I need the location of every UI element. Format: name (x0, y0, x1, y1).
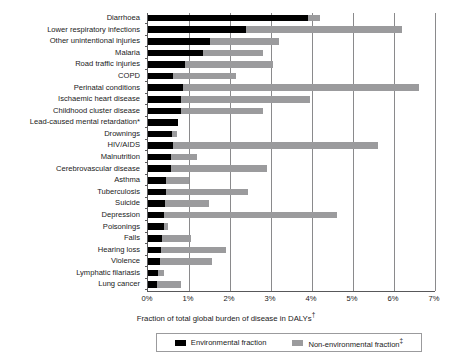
category-axis-labels: DiarrhoeaLower respiratory infectionsOth… (0, 13, 144, 291)
bar-segment-non-environmental (181, 96, 310, 103)
category-label: Falls (0, 233, 140, 244)
bar-row (148, 140, 435, 151)
category-label: Tuberculosis (0, 187, 140, 198)
bar-segment-environmental (148, 96, 181, 103)
bar-segment-non-environmental (161, 247, 226, 254)
bar-segment-non-environmental (173, 142, 378, 149)
stacked-bar (148, 61, 273, 68)
stacked-bar (148, 108, 263, 115)
stacked-bar (148, 142, 378, 149)
category-label: Perinatal conditions (0, 83, 140, 94)
bar-row (148, 210, 435, 221)
bar-segment-environmental (148, 189, 166, 196)
footnote-marker-dagger: † (312, 311, 316, 318)
x-tick-label: 6% (388, 294, 399, 303)
bar-segment-environmental (148, 200, 165, 207)
stacked-bar (148, 177, 189, 184)
stacked-bar (148, 258, 212, 265)
stacked-bar (148, 270, 164, 277)
category-label: COPD (0, 71, 140, 82)
bar-row (148, 279, 435, 290)
bar-segment-environmental (148, 154, 171, 161)
bar-row (148, 164, 435, 175)
stacked-bar (148, 247, 226, 254)
category-label: Malaria (0, 48, 140, 59)
bar-segment-environmental (148, 15, 308, 22)
category-label: Violence (0, 256, 140, 267)
x-tick-label: 2% (224, 294, 235, 303)
bar-row (148, 152, 435, 163)
bar-rows (148, 13, 435, 291)
bar-segment-environmental (148, 177, 166, 184)
bar-segment-non-environmental (164, 212, 336, 219)
category-label: Malnutrition (0, 152, 140, 163)
bar-row (148, 48, 435, 59)
bar-row (148, 94, 435, 105)
category-label: Suicide (0, 198, 140, 209)
bar-segment-non-environmental (210, 38, 280, 45)
bar-segment-environmental (148, 73, 173, 80)
category-label: Diarrhoea (0, 13, 140, 24)
stacked-bar (148, 189, 248, 196)
stacked-bar (148, 84, 419, 91)
category-label: Hearing loss (0, 245, 140, 256)
bar-row (148, 129, 435, 140)
stacked-bar (148, 50, 263, 57)
bar-segment-non-environmental (166, 177, 189, 184)
bar-segment-non-environmental (157, 281, 181, 288)
bar-segment-environmental (148, 223, 164, 230)
bar-segment-environmental (148, 84, 183, 91)
bar-row (148, 36, 435, 47)
stacked-bar (148, 281, 181, 288)
bar-segment-non-environmental (164, 223, 169, 230)
bar-segment-non-environmental (158, 270, 164, 277)
category-label: Cerebrovascular disease (0, 164, 140, 175)
category-label: Childhood cluster disease (0, 106, 140, 117)
category-label: Road traffic injuries (0, 59, 140, 70)
x-axis-title: Fraction of total global burden of disea… (0, 311, 452, 323)
stacked-bar (148, 15, 320, 22)
bar-row (148, 106, 435, 117)
stacked-bar (148, 235, 191, 242)
category-label: HIV/AIDS (0, 140, 140, 151)
bar-row (148, 25, 435, 36)
category-label: Asthma (0, 175, 140, 186)
bar-segment-environmental (148, 247, 161, 254)
bar-segment-environmental (148, 26, 246, 33)
x-tick-label: 1% (183, 294, 194, 303)
bar-segment-non-environmental (166, 189, 248, 196)
x-tick-label: 3% (265, 294, 276, 303)
bar-row (148, 13, 435, 24)
stacked-bar (148, 96, 310, 103)
bar-segment-non-environmental (203, 50, 262, 57)
bar-segment-non-environmental (185, 61, 273, 68)
category-label: Lymphatic filariasis (0, 268, 140, 279)
x-tick-label: 4% (306, 294, 317, 303)
bar-segment-environmental (148, 281, 157, 288)
bar-segment-environmental (148, 50, 203, 57)
stacked-bar (148, 154, 197, 161)
bar-segment-non-environmental (172, 131, 177, 138)
stacked-bar (148, 73, 236, 80)
bar-row (148, 175, 435, 186)
x-tick-label: 5% (347, 294, 358, 303)
category-label: Other unintentional injuries (0, 36, 140, 47)
bar-row (148, 59, 435, 70)
category-label: Lower respiratory infections (0, 25, 140, 36)
bar-segment-environmental (148, 61, 185, 68)
bar-segment-non-environmental (181, 108, 263, 115)
bar-row (148, 268, 435, 279)
bar-segment-environmental (148, 119, 178, 126)
bar-segment-non-environmental (162, 235, 191, 242)
bar-segment-non-environmental (171, 165, 267, 172)
bar-segment-environmental (148, 212, 164, 219)
bar-row (148, 117, 435, 128)
bar-row (148, 71, 435, 82)
bar-row (148, 256, 435, 267)
legend-swatch-non-environmental-icon (292, 340, 303, 346)
category-label: Lead-caused mental retardation* (0, 117, 140, 128)
category-label: Depression (0, 210, 140, 221)
legend-item-non-environmental: Non-environmental fraction‡ (292, 337, 403, 349)
bar-segment-non-environmental (165, 200, 209, 207)
bar-segment-environmental (148, 108, 181, 115)
